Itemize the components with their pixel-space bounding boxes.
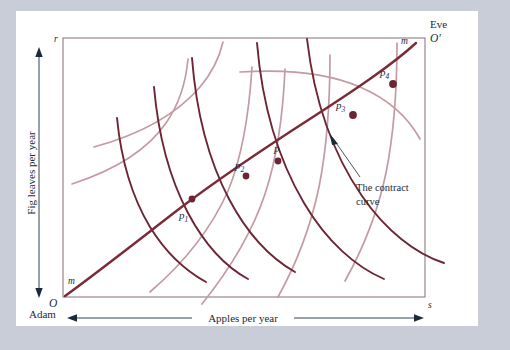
eve-curve-5	[278, 55, 330, 297]
origin-label-eve: O'	[430, 32, 441, 44]
endpoint-label-lower-m: m	[68, 276, 75, 286]
point-marker-p2	[243, 173, 250, 180]
y-axis-arrow-up-icon	[35, 47, 42, 57]
point-label-p: p	[273, 142, 280, 154]
adam-curve-5	[307, 39, 444, 263]
y-axis-arrow-down-icon	[35, 288, 42, 298]
x-axis-indicator: Apples per year	[67, 312, 424, 324]
corner-label-s: s	[428, 300, 432, 310]
corner-label-r: r	[54, 34, 58, 44]
eve-curve-1	[72, 59, 188, 184]
annotation-line-1: The contract	[356, 182, 409, 193]
person-label-adam: Adam	[29, 308, 56, 320]
x-axis-title: Apples per year	[208, 312, 278, 324]
person-label-eve: Eve	[430, 18, 447, 30]
endpoint-label-upper-m: m	[401, 36, 408, 46]
eve-curve-4	[202, 69, 285, 304]
point-marker-p	[275, 158, 282, 165]
point-label-p3: p3	[335, 99, 346, 114]
x-axis-arrow-right-icon	[414, 314, 424, 321]
eve-curve-3	[150, 67, 252, 292]
y-axis-title: Fig leaves per year	[25, 131, 37, 215]
point-marker-p3	[349, 111, 357, 119]
point-label-p4: p4	[379, 66, 390, 81]
contract-curve-annotation: The contract curve	[330, 134, 409, 207]
y-axis-indicator: Fig leaves per year	[25, 47, 43, 298]
annotation-line-2: curve	[356, 196, 380, 207]
point-marker-p4	[389, 80, 397, 88]
point-marker-p1	[189, 196, 196, 203]
figure-panel: p1 p2 p p3 p4 m m O O' r s	[16, 11, 478, 326]
edgeworth-box-diagram: p1 p2 p p3 p4 m m O O' r s	[16, 11, 478, 326]
annotation-arrowhead-icon	[330, 134, 338, 145]
x-axis-arrow-left-icon	[67, 314, 77, 321]
